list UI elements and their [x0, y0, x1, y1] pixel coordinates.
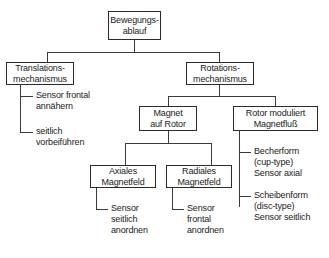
node-label-line: Magnetfeld	[101, 177, 144, 188]
connector-tick-scheibenform	[239, 196, 251, 197]
leaf-scheibenform[interactable]: Scheibenform (disc-type) Sensor seitlich	[254, 190, 310, 223]
flowchart-diagram: Bewegungs- ablauf Translations- mechanis…	[0, 0, 329, 258]
connector-tick-sensor-frontal-anordnen	[172, 209, 184, 210]
connector-to-rotor-moduliert	[275, 96, 276, 106]
leaf-sensor-frontal-annaehern[interactable]: Sensor frontal annähern	[36, 90, 90, 112]
leaf-label-line: anordnen	[111, 225, 148, 236]
leaf-sensor-seitlich-anordnen[interactable]: Sensor seitlich anordnen	[111, 203, 148, 236]
connector-level3-bar	[125, 143, 211, 144]
leaf-label-line: Sensor seitlich	[254, 212, 310, 223]
connector-axiales-spine	[96, 188, 97, 210]
leaf-label-line: Sensor frontal	[36, 90, 90, 101]
leaf-label-line: Sensor	[187, 203, 224, 214]
node-label-line: Radiales	[182, 166, 216, 177]
node-axiales-magnetfeld[interactable]: Axiales Magnetfeld	[90, 165, 156, 188]
connector-radiales-spine	[172, 188, 173, 210]
leaf-label-line: Becherform	[254, 146, 302, 157]
node-magnet-auf-rotor[interactable]: Magnet auf Rotor	[139, 106, 197, 131]
leaf-label-line: Sensor axial	[254, 168, 302, 179]
leaf-label-line: seitlich	[111, 214, 148, 225]
leaf-becherform[interactable]: Becherform (cup-type) Sensor axial	[254, 146, 302, 179]
connector-tick-sensor-seitlich-anordnen	[96, 209, 108, 210]
node-label-line: auf Rotor	[150, 119, 186, 130]
node-translationsmechanismus[interactable]: Translations- mechanismus	[6, 62, 74, 85]
node-label-line: Bewegungs-	[110, 15, 159, 26]
leaf-label-line: vorbeiführen	[36, 137, 84, 148]
node-label-line: Magnetfluß	[254, 119, 298, 130]
connector-tick-becherform	[239, 152, 251, 153]
leaf-label-line: (disc-type)	[254, 201, 310, 212]
leaf-label-line: Sensor	[111, 203, 148, 214]
node-label-line: Translations-	[15, 63, 65, 74]
leaf-label-line: Scheibenform	[254, 190, 310, 201]
node-label-line: Magnet	[153, 108, 182, 119]
node-label-line: Axiales	[109, 166, 137, 177]
leaf-label-line: seitlich	[36, 126, 84, 137]
leaf-label-line: annähern	[36, 101, 90, 112]
connector-tick-sensor-frontal-annaehern	[20, 96, 33, 97]
node-radiales-magnetfeld[interactable]: Radiales Magnetfeld	[166, 165, 232, 188]
leaf-label-line: (cup-type)	[254, 157, 302, 168]
node-label-line: mechanismus	[193, 74, 247, 85]
leaf-sensor-frontal-anordnen[interactable]: Sensor frontal anordnen	[187, 203, 224, 236]
node-label-line: Magnetfeld	[177, 177, 220, 188]
node-bewegungsablauf[interactable]: Bewegungs- ablauf	[108, 11, 161, 40]
connector-level2-bar	[168, 96, 275, 97]
leaf-seitlich-vorbeifuehren[interactable]: seitlich vorbeiführen	[36, 126, 84, 148]
leaf-label-line: frontal	[187, 214, 224, 225]
node-label-line: mechanismus	[13, 74, 67, 85]
connector-to-radiales	[211, 143, 212, 165]
node-label-line: Rotations-	[200, 63, 240, 74]
node-label-line: Rotor moduliert	[246, 108, 305, 119]
node-rotationsmechanismus[interactable]: Rotations- mechanismus	[186, 62, 254, 85]
leaf-label-line: anordnen	[187, 225, 224, 236]
node-label-line: ablauf	[123, 26, 147, 37]
connector-tick-seitlich-vorbeifuehren	[20, 132, 33, 133]
connector-to-magnet-auf-rotor	[168, 96, 169, 106]
connector-to-axiales	[125, 143, 126, 165]
connector-translation-spine	[20, 84, 21, 133]
node-rotor-moduliert-magnetfluss[interactable]: Rotor moduliert Magnetfluß	[233, 106, 318, 131]
connector-to-translation	[47, 52, 48, 62]
connector-level1-bar	[47, 52, 220, 53]
connector-to-rotation	[219, 52, 220, 62]
